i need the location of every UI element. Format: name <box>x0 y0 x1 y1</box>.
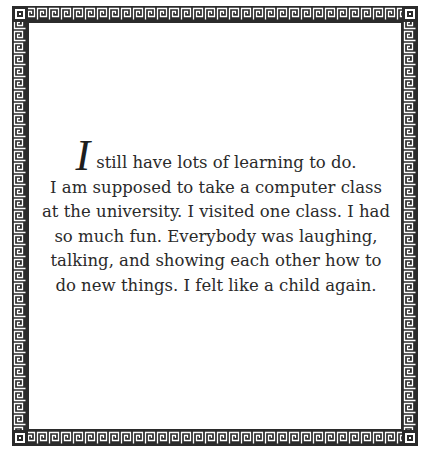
corner-square-bottom-left <box>12 430 28 446</box>
passage-line-2: I am supposed to take a computer class <box>40 176 392 201</box>
passage-line-1-text: still have lots of learning to do. <box>96 153 356 172</box>
passage-line-1: Istill have lots of learning to do. <box>40 146 392 176</box>
passage-line-6: do new things. I felt like a child again… <box>40 274 392 299</box>
border-top <box>12 6 418 22</box>
meander-pattern-right <box>402 6 418 446</box>
meander-pattern-bottom <box>12 430 418 446</box>
corner-square-top-right <box>402 6 418 22</box>
passage-line-4: so much fun. Everybody was laughing, <box>40 225 392 250</box>
dropcap: I <box>76 131 91 180</box>
passage-line-5: talking, and showing each other how to <box>40 249 392 274</box>
meander-pattern-left <box>12 6 28 446</box>
border-bottom <box>12 430 418 446</box>
passage-text: Istill have lots of learning to do. I am… <box>40 146 392 298</box>
border-left <box>12 6 28 446</box>
meander-pattern-top <box>12 6 418 22</box>
border-right <box>402 6 418 446</box>
corner-square-top-left <box>12 6 28 22</box>
passage-line-3: at the university. I visited one class. … <box>40 200 392 225</box>
corner-square-bottom-right <box>402 430 418 446</box>
